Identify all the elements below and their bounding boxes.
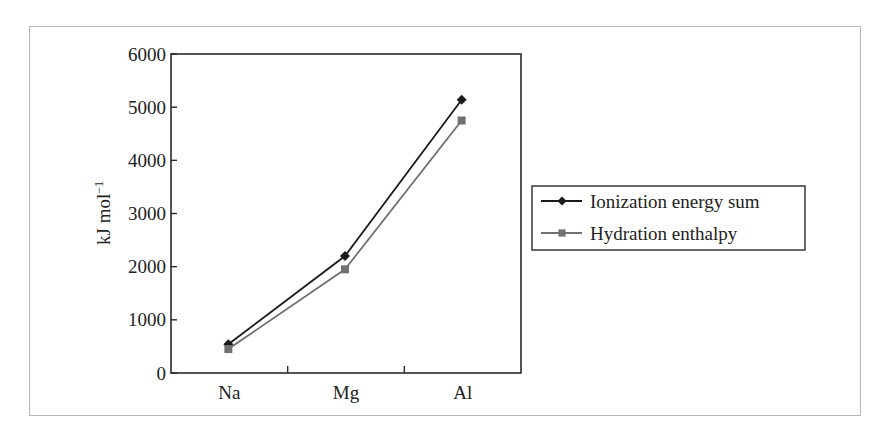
y-axis-label: kJ mol−1 (92, 181, 114, 245)
y-tick-label: 6000 (128, 44, 166, 65)
square-marker (458, 116, 466, 124)
y-tick-label: 5000 (128, 97, 166, 118)
series-ionization-energy-sum (223, 95, 466, 350)
y-tick-label: 3000 (128, 203, 166, 224)
y-tick-label: 0 (157, 363, 167, 384)
x-tick-label: Na (218, 382, 241, 403)
x-axis: NaMgAl (218, 366, 472, 403)
y-tick-label: 4000 (128, 150, 166, 171)
plot-area (171, 54, 521, 373)
plot-border (171, 54, 521, 373)
series-line (228, 100, 461, 345)
legend-label: Ionization energy sum (590, 191, 760, 212)
square-marker (341, 265, 349, 273)
series-line (228, 120, 461, 349)
legend: Ionization energy sumHydration enthalpy (532, 186, 805, 250)
series-hydration-enthalpy (224, 116, 465, 353)
y-axis: 0100020003000400050006000 (128, 44, 177, 384)
square-marker (558, 229, 565, 236)
line-chart: 0100020003000400050006000 NaMgAl kJ mol−… (0, 0, 896, 443)
square-marker (224, 345, 232, 353)
y-tick-label: 1000 (128, 309, 166, 330)
x-tick-label: Mg (333, 382, 360, 403)
series-layer (223, 95, 466, 353)
y-tick-label: 2000 (128, 256, 166, 277)
x-tick-label: Al (453, 382, 472, 403)
legend-label: Hydration enthalpy (590, 223, 738, 244)
